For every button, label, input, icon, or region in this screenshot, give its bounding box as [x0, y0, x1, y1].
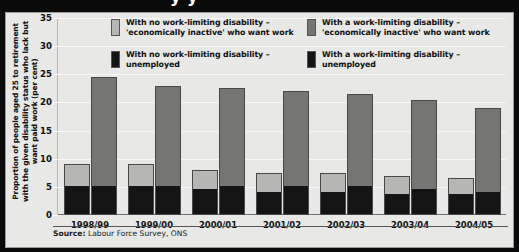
- bar-disability-inactive-segment: [156, 87, 180, 188]
- bar-no-disability: [128, 164, 154, 215]
- x-axis-label: 2004/05: [455, 220, 493, 230]
- source-note: Source: Labour Force Survey, ONS: [53, 229, 187, 238]
- bar-disability-inactive-segment: [220, 89, 244, 188]
- plot-area: 051015202530351998/991999/002000/012001/…: [58, 18, 506, 215]
- y-tick-mark: [53, 215, 58, 216]
- title-strip: y y: [0, 0, 519, 12]
- bar-disability: [283, 91, 309, 215]
- x-axis-label: 2001/02: [263, 220, 301, 230]
- bar-disability-inactive-segment: [348, 95, 372, 188]
- bar-group: [384, 18, 437, 215]
- chart-panel: Proportion of people aged 25 to retireme…: [5, 12, 514, 248]
- y-tick-mark: [53, 187, 58, 188]
- bar-disability: [219, 88, 245, 215]
- bar-group: [320, 18, 373, 215]
- source-label: Source:: [53, 229, 86, 238]
- y-tick-mark: [53, 74, 58, 75]
- y-tick-label: 30: [40, 41, 52, 51]
- bar-disability-inactive-segment: [92, 78, 116, 188]
- y-tick-label: 20: [40, 97, 52, 107]
- x-axis-label: 2000/01: [199, 220, 237, 230]
- y-axis-title: Proportion of people aged 25 to retireme…: [11, 13, 40, 209]
- bar-no-disability-unemployed-segment: [257, 192, 281, 215]
- bar-no-disability: [64, 164, 90, 215]
- bar-no-disability-unemployed-segment: [449, 194, 473, 214]
- bar-disability-inactive-segment: [476, 109, 500, 193]
- bar-disability-inactive-segment: [284, 92, 308, 188]
- y-tick-mark: [53, 18, 58, 19]
- bar-group: [192, 18, 245, 215]
- source-text: Labour Force Survey, ONS: [86, 229, 188, 238]
- bar-no-disability-inactive-segment: [65, 165, 89, 188]
- y-tick-label: 10: [40, 154, 52, 164]
- y-tick-mark: [53, 102, 58, 103]
- bar-no-disability-unemployed-segment: [321, 192, 345, 215]
- bar-no-disability-unemployed-segment: [385, 194, 409, 214]
- bar-disability: [155, 86, 181, 215]
- bar-no-disability-unemployed-segment: [193, 189, 217, 214]
- y-tick-label: 5: [46, 182, 52, 192]
- page-title: y y: [170, 0, 198, 6]
- bar-disability-unemployed-segment: [412, 189, 436, 214]
- y-tick-mark: [53, 131, 58, 132]
- bar-group: [128, 18, 181, 215]
- bar-no-disability: [448, 178, 474, 215]
- bar-no-disability: [256, 173, 282, 215]
- x-axis-label: 2002/03: [327, 220, 365, 230]
- bar-no-disability: [320, 173, 346, 215]
- bar-no-disability: [192, 170, 218, 215]
- chart-screenshot: y y Proportion of people aged 25 to reti…: [0, 0, 519, 252]
- y-axis-line: [57, 18, 58, 215]
- y-tick-label: 35: [40, 13, 52, 23]
- bar-disability-inactive-segment: [412, 101, 436, 191]
- bar-disability-unemployed-segment: [284, 186, 308, 214]
- bar-group: [256, 18, 309, 215]
- y-tick-label: 15: [40, 126, 52, 136]
- bar-group: [64, 18, 117, 215]
- bar-disability-unemployed-segment: [156, 186, 180, 214]
- x-axis-label: 2003/04: [391, 220, 429, 230]
- bar-disability: [475, 108, 501, 215]
- bar-no-disability: [384, 176, 410, 215]
- bar-disability-unemployed-segment: [92, 186, 116, 214]
- bar-disability-unemployed-segment: [476, 192, 500, 215]
- bar-disability: [411, 100, 437, 215]
- bar-group: [448, 18, 501, 215]
- bar-disability-unemployed-segment: [220, 186, 244, 214]
- bar-disability-unemployed-segment: [348, 186, 372, 214]
- bar-no-disability-unemployed-segment: [65, 186, 89, 214]
- y-tick-label: 25: [40, 69, 52, 79]
- y-tick-mark: [53, 46, 58, 47]
- bar-disability: [91, 77, 117, 215]
- bar-no-disability-unemployed-segment: [129, 186, 153, 214]
- y-tick-mark: [53, 159, 58, 160]
- bar-no-disability-inactive-segment: [129, 165, 153, 188]
- y-tick-label: 0: [46, 210, 52, 220]
- source-divider: [53, 226, 508, 227]
- bar-disability: [347, 94, 373, 215]
